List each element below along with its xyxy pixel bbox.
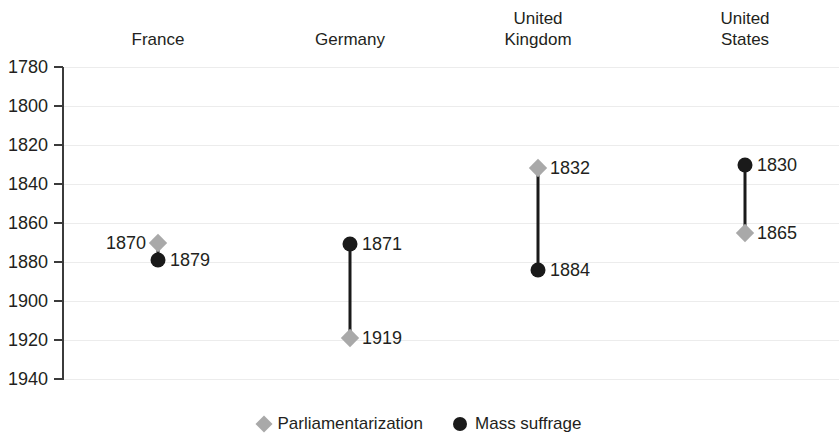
- legend-label: Mass suffrage: [475, 414, 581, 434]
- y-tick-1940: [54, 378, 63, 380]
- gridline-1820: [62, 145, 839, 146]
- marker-united-states-mass-suffrage[interactable]: [738, 157, 753, 172]
- point-label-germany-mass-suffrage: 1871: [362, 235, 402, 253]
- y-tick-1920: [54, 339, 63, 341]
- y-tick-label-1900: 1900: [0, 292, 48, 310]
- y-tick-1840: [54, 183, 63, 185]
- marker-united-kingdom-mass-suffrage[interactable]: [531, 262, 546, 277]
- point-label-united-states-mass-suffrage: 1830: [757, 156, 797, 174]
- gridline-1860: [62, 223, 839, 224]
- column-header-united-kingdom: United Kingdom: [504, 8, 571, 50]
- y-tick-label-1820: 1820: [0, 136, 48, 154]
- y-tick-label-1800: 1800: [0, 97, 48, 115]
- chart-legend: ParliamentarizationMass suffrage: [0, 414, 839, 434]
- y-tick-label-1880: 1880: [0, 253, 48, 271]
- gridline-1920: [62, 340, 839, 341]
- y-tick-1880: [54, 261, 63, 263]
- y-tick-label-1780: 1780: [0, 58, 48, 76]
- point-label-france-mass-suffrage: 1879: [170, 251, 210, 269]
- gridline-1780: [62, 67, 839, 68]
- marker-france-mass-suffrage[interactable]: [151, 253, 166, 268]
- legend-diamond-icon: [255, 416, 272, 433]
- marker-germany-mass-suffrage[interactable]: [343, 237, 358, 252]
- y-tick-1800: [54, 105, 63, 107]
- column-header-germany: Germany: [315, 29, 385, 50]
- legend-circle-icon: [453, 417, 467, 431]
- point-label-united-kingdom-parliamentarization: 1832: [550, 159, 590, 177]
- point-label-france-parliamentarization: 1870: [106, 234, 146, 252]
- legend-item-mass-suffrage[interactable]: Mass suffrage: [453, 414, 581, 434]
- point-label-united-states-parliamentarization: 1865: [757, 224, 797, 242]
- y-tick-label-1860: 1860: [0, 214, 48, 232]
- y-tick-label-1920: 1920: [0, 331, 48, 349]
- y-tick-1820: [54, 144, 63, 146]
- y-tick-label-1940: 1940: [0, 370, 48, 388]
- gridline-1900: [62, 301, 839, 302]
- point-label-united-kingdom-mass-suffrage: 1884: [550, 261, 590, 279]
- column-header-united-states: United States: [720, 8, 769, 50]
- gridline-1800: [62, 106, 839, 107]
- y-tick-1780: [54, 66, 63, 68]
- point-label-germany-parliamentarization: 1919: [362, 329, 402, 347]
- plot-area: [62, 67, 839, 379]
- legend-item-parliamentarization[interactable]: Parliamentarization: [258, 414, 424, 434]
- y-tick-1900: [54, 300, 63, 302]
- dumbbell-chart: FranceGermanyUnited KingdomUnited States…: [0, 0, 839, 444]
- gridline-1840: [62, 184, 839, 185]
- connector-united-states: [744, 165, 747, 233]
- connector-united-kingdom: [537, 168, 540, 269]
- gridline-1940: [62, 379, 839, 380]
- connector-germany: [349, 244, 352, 338]
- column-header-france: France: [132, 29, 185, 50]
- y-tick-1860: [54, 222, 63, 224]
- legend-label: Parliamentarization: [278, 414, 424, 434]
- y-tick-label-1840: 1840: [0, 175, 48, 193]
